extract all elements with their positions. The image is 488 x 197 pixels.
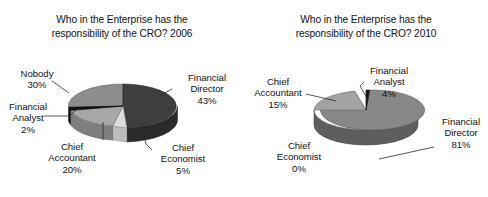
slice-nobody-2006: [69, 84, 123, 107]
pie-graphic-2006: [58, 74, 188, 149]
label-chief-economist-2006: Chief Economist 5%: [150, 142, 216, 176]
label-chief-accountant-2010: Chief Accountant 15%: [244, 76, 312, 110]
label-chief-economist-2010: Chief Economist 0%: [264, 140, 334, 174]
label-financial-analyst-2006: Financial Analyst 2%: [0, 101, 56, 135]
chart-title-2010: Who in the Enterprise has the responsibi…: [244, 13, 488, 40]
pie-chart-panel-2010: Who in the Enterprise has the responsibi…: [244, 0, 488, 197]
chart-title-2006: Who in the Enterprise has the responsibi…: [0, 13, 244, 40]
label-chief-accountant-2006: Chief Accountant 20%: [38, 141, 106, 175]
label-financial-analyst-2010: Financial Analyst 4%: [356, 65, 422, 99]
label-financial-director-2010: Financial Director 81%: [434, 116, 488, 150]
label-nobody-2006: Nobody 30%: [6, 68, 68, 91]
label-financial-director-2006: Financial Director 43%: [175, 72, 239, 106]
pie-chart-panel-2006: Who in the Enterprise has the responsibi…: [0, 0, 244, 197]
